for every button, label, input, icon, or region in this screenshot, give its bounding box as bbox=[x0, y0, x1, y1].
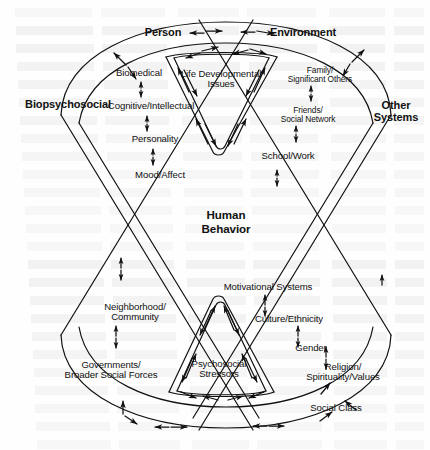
label-motivational-systems: Motivational Systems bbox=[224, 282, 313, 292]
label-gender: Gender bbox=[295, 343, 326, 353]
arrow-inner-right-down2 bbox=[228, 124, 238, 146]
arrow-group-inner-bottom bbox=[181, 306, 264, 400]
arrow-group-inner-top bbox=[178, 47, 266, 146]
label-school-work: School/Work bbox=[261, 151, 314, 161]
label-family-significant-others: Family/ Significant Others bbox=[288, 66, 352, 84]
label-psychosocial-stressors: Psychosocial Stressors bbox=[192, 359, 247, 380]
label-culture-ethnicity: Culture/Ethnicity bbox=[255, 314, 323, 324]
figure-container: Person Environment Biopsychosocial Other… bbox=[0, 0, 430, 450]
label-governments-broader-social-forces: Governments/ Broader Social Forces bbox=[65, 360, 158, 381]
label-friends-social-network: Friends/ Social Network bbox=[281, 106, 335, 124]
heading-environment: Environment bbox=[270, 27, 336, 39]
arrow-inner-left-up bbox=[196, 119, 208, 144]
arrow-group-person-chain bbox=[141, 82, 153, 165]
arrow-person-factor-up bbox=[114, 53, 126, 65]
arrow-religion-up bbox=[321, 383, 330, 394]
label-life-developmental-issues: Life Developmental Issues bbox=[181, 69, 261, 90]
label-social-class: Social Class bbox=[310, 403, 362, 413]
arrow-socialclass-up bbox=[320, 412, 332, 421]
arrow-inner-b-right-down2 bbox=[246, 359, 257, 382]
heading-person: Person bbox=[145, 27, 182, 39]
outer-line-left-to-right bbox=[61, 115, 253, 430]
arrow-inner-left-down2 bbox=[205, 124, 216, 146]
center-label-human-behavior: Human Behavior bbox=[202, 208, 251, 237]
label-mood-affect: Mood/Affect bbox=[135, 170, 185, 180]
heading-other-systems: Other Systems bbox=[374, 100, 419, 124]
arrow-inner-b-right-up2 bbox=[224, 306, 234, 330]
label-cognitive-intellectual: Cognitive/Intellectual bbox=[108, 101, 194, 111]
arrow-bottom-left-diag bbox=[125, 416, 137, 424]
arrow-inner-top-cap-left-right bbox=[202, 47, 218, 51]
heading-biopsychosocial: Biopsychosocial bbox=[25, 99, 111, 111]
label-neighborhood-community: Neighborhood/ Community bbox=[104, 302, 166, 323]
label-personality: Personality bbox=[132, 134, 178, 144]
outer-line-right-to-left bbox=[199, 115, 391, 430]
arrow-inner-b-left-up2 bbox=[204, 306, 215, 330]
arrow-group-environment-chain bbox=[277, 86, 311, 186]
label-religion-spirituality-values: Religion/ Spirituality/Values bbox=[306, 362, 380, 383]
label-biomedical: Biomedical bbox=[116, 68, 162, 78]
